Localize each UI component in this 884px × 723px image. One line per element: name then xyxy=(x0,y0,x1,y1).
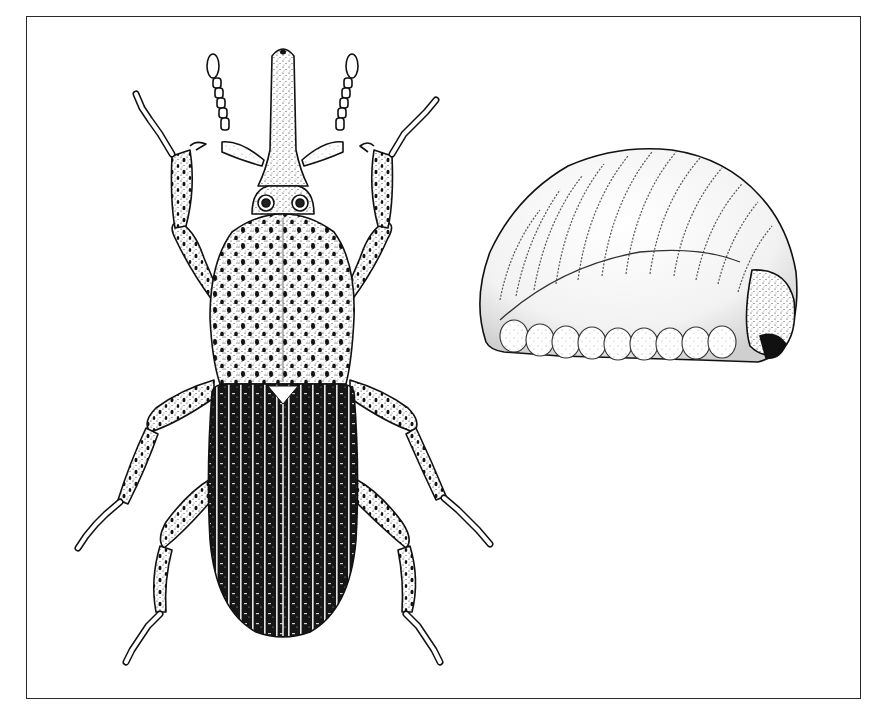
weevil-eye-left xyxy=(258,195,274,211)
weevil-adult xyxy=(78,49,490,662)
weevil-hindleg-right xyxy=(354,478,440,662)
weevil-midleg-right xyxy=(350,380,490,544)
weevil-pronotum xyxy=(210,214,354,384)
weevil-foreleg-left xyxy=(136,94,220,300)
weevil-midleg-left xyxy=(78,380,214,548)
weevil-rostrum xyxy=(258,49,308,186)
weevil-foreleg-right xyxy=(344,100,436,300)
weevil-eye-right xyxy=(292,195,308,211)
weevil-antenna-right xyxy=(302,54,358,166)
weevil-hindleg-left xyxy=(126,478,212,662)
illustration-canvas xyxy=(0,0,884,723)
weevil-antenna-left xyxy=(207,54,264,166)
weevil-larva xyxy=(480,149,797,362)
